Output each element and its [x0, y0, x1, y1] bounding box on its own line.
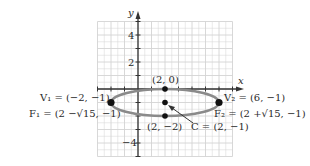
- point-v2: [215, 99, 222, 106]
- ellipse-graph: x y 4 2 −4 (2, 0) V₁ = (−2, −1) F₁ = (2 …: [0, 0, 310, 166]
- tick-label-2: 2: [128, 57, 134, 68]
- tick-label-4: 4: [128, 30, 134, 41]
- label-top-point: (2, 0): [152, 74, 179, 85]
- x-axis-label: x: [238, 75, 244, 86]
- point-bottom: [162, 113, 168, 119]
- point-top: [162, 86, 168, 92]
- label-center: C = (2, −1): [191, 121, 249, 132]
- label-v2: V₂ = (6, −1): [223, 92, 285, 103]
- label-f1: F₁ = (2 −√15, −1): [29, 108, 121, 119]
- label-bottom-point: (2, −2): [147, 121, 182, 132]
- tick-label-neg4: −4: [122, 137, 137, 148]
- x-axis-arrow-icon: [236, 87, 244, 92]
- label-f2: F₂ = (2 +√15, −1): [214, 108, 306, 119]
- point-center: [162, 100, 168, 106]
- label-v1: V₁ = (−2, −1): [39, 92, 110, 103]
- y-axis-arrow-icon: [136, 11, 141, 19]
- y-axis-label: y: [127, 7, 134, 18]
